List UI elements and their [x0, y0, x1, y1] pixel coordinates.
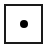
dot-icon	[20, 20, 28, 28]
